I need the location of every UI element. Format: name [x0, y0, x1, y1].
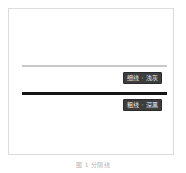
- sample-card: 细线 · 浅灰 粗线 · 深黑: [8, 8, 174, 155]
- rule-label-chip-thin[interactable]: 细线 · 浅灰: [123, 72, 162, 84]
- rule-label-chip-thick[interactable]: 粗线 · 深黑: [123, 99, 162, 111]
- horizontal-rule-thick: [22, 92, 167, 95]
- figure-caption: 图 1 分隔线: [0, 160, 186, 169]
- horizontal-rule-thin: [22, 65, 167, 67]
